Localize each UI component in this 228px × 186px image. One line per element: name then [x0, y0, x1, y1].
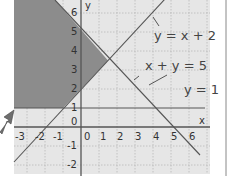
svg-text:5: 5	[71, 26, 77, 37]
arrow-icon	[0, 110, 14, 134]
label-eq2: x + y = 5	[145, 58, 207, 73]
svg-text:0: 0	[71, 116, 77, 127]
graph: y = x + 2 x + y = 5 y = 1 y x -3 -2 -1 0…	[0, 0, 228, 186]
label-eq3: y = 1	[184, 82, 219, 97]
svg-text:-1: -1	[53, 131, 63, 142]
svg-text:4: 4	[71, 45, 77, 56]
label-eq1: y = x + 2	[154, 28, 216, 43]
svg-text:2: 2	[117, 131, 123, 142]
svg-text:-1: -1	[67, 140, 77, 151]
svg-text:0: 0	[84, 131, 90, 142]
svg-text:6: 6	[189, 131, 195, 142]
svg-text:6: 6	[71, 7, 77, 18]
x-axis-label: x	[199, 115, 205, 126]
svg-text:2: 2	[71, 83, 77, 94]
svg-text:-2: -2	[67, 159, 77, 170]
svg-text:-3: -3	[15, 131, 25, 142]
svg-text:3: 3	[71, 64, 77, 75]
svg-text:5: 5	[171, 131, 177, 142]
svg-text:3: 3	[135, 131, 141, 142]
y-axis-label: y	[85, 0, 91, 11]
svg-text:-2: -2	[35, 131, 45, 142]
svg-text:4: 4	[153, 131, 159, 142]
svg-text:1: 1	[100, 131, 106, 142]
svg-text:1: 1	[71, 102, 77, 113]
